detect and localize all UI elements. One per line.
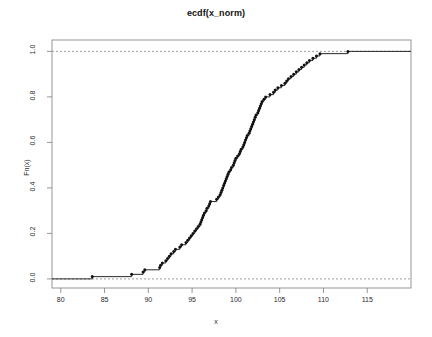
x-tick-label-90: 90	[133, 296, 163, 303]
ecdf-point	[287, 77, 290, 80]
x-tick-label-115: 115	[352, 296, 382, 303]
reference-line-layer	[52, 51, 411, 279]
ecdf-point	[269, 93, 272, 96]
ecdf-point	[346, 50, 349, 53]
ecdf-point	[297, 68, 300, 71]
ecdf-point	[174, 248, 177, 251]
axis-ticks	[47, 51, 367, 293]
plot-border	[52, 40, 411, 288]
x-tick-label-105: 105	[265, 296, 295, 303]
ecdf-point	[274, 89, 277, 92]
ecdf-point	[180, 243, 183, 246]
ecdf-data-points	[91, 50, 350, 278]
ecdf-point	[209, 200, 212, 203]
ecdf-point	[300, 66, 303, 69]
plot-frame	[52, 40, 411, 288]
ecdf-point	[280, 84, 283, 87]
ecdf-point	[311, 57, 314, 60]
y-tick-label-0.4: 0.4	[29, 174, 36, 198]
y-tick-label-0.0: 0.0	[29, 265, 36, 289]
ecdf-point	[318, 52, 321, 55]
ecdf-point	[276, 86, 279, 89]
ecdf-point	[305, 61, 308, 64]
ecdf-point	[143, 268, 146, 271]
y-tick-label-0.2: 0.2	[29, 220, 36, 244]
ecdf-point	[290, 75, 293, 78]
ecdf-point	[161, 261, 164, 264]
ecdf-point	[308, 59, 311, 62]
x-tick-label-85: 85	[90, 296, 120, 303]
ecdf-point	[170, 252, 173, 255]
x-tick-label-110: 110	[308, 296, 338, 303]
ecdf-point	[130, 273, 133, 276]
x-tick-label-100: 100	[221, 296, 251, 303]
ecdf-point	[91, 275, 94, 278]
x-axis-label: x	[0, 318, 432, 325]
ecdf-step-path	[52, 51, 411, 279]
ecdf-figure: ecdf(x_norm) 80859095100105110115 0.00.2…	[0, 0, 432, 337]
ecdf-point	[303, 64, 306, 67]
x-tick-label-95: 95	[177, 296, 207, 303]
x-tick-label-80: 80	[46, 296, 76, 303]
ecdf-point	[295, 70, 298, 73]
plot-canvas	[0, 0, 432, 337]
ecdf-point	[292, 73, 295, 76]
ecdf-step-line	[52, 51, 411, 279]
y-tick-label-1.0: 1.0	[29, 38, 36, 62]
ecdf-point	[315, 54, 318, 57]
y-axis-label: Fn(x)	[23, 148, 30, 188]
y-tick-label-0.8: 0.8	[29, 83, 36, 107]
ecdf-point	[264, 95, 267, 98]
y-tick-label-0.6: 0.6	[29, 129, 36, 153]
